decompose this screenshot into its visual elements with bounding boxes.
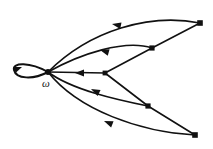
node-omega (45, 69, 51, 75)
edge-lower-to-botright (148, 106, 195, 135)
graph-figure: ω (0, 0, 213, 149)
node-botright (192, 132, 198, 138)
edge-lower-to-omega (48, 72, 148, 106)
edge-botright-to-omega (48, 72, 195, 135)
arrowhead-botright-to-omega (103, 118, 114, 127)
edge-mid-to-upper (105, 48, 152, 73)
edge-self-loop-omega (14, 64, 48, 77)
graph-canvas (0, 0, 213, 149)
node-topright (197, 20, 203, 26)
edge-upper-to-topright (152, 23, 200, 48)
node-upper (149, 45, 154, 50)
arrowhead-mid-to-omega (75, 70, 84, 77)
arrowhead-topright-to-omega (111, 21, 121, 29)
node-mid (103, 71, 108, 76)
node-lower (145, 103, 150, 108)
node-label-omega: ω (42, 78, 50, 89)
